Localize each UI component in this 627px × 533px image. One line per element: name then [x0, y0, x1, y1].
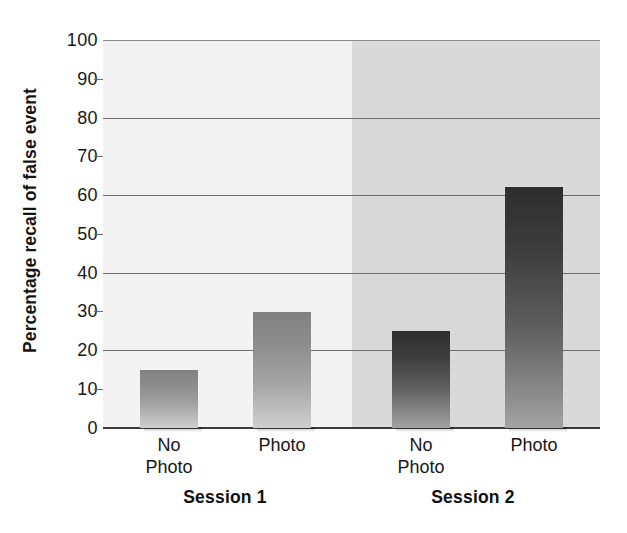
y-tick-label-30: 30	[48, 302, 98, 320]
gridline-80	[103, 118, 600, 119]
x-tick-label-line1: No	[157, 435, 180, 455]
minor-tick-30	[94, 311, 103, 312]
y-axis-title: Percentage recall of false event	[13, 0, 47, 440]
group-labels: Session 1 Session 2	[103, 487, 600, 517]
y-axis-title-text: Percentage recall of false event	[20, 88, 41, 353]
x-tick-label-line1: Photo	[258, 435, 305, 455]
minor-tick-10	[94, 389, 103, 390]
x-tick-label-session2-no-photo: No Photo	[371, 434, 471, 478]
bar-session1-no-photo	[140, 370, 198, 428]
group-label-session2: Session 2	[403, 487, 543, 508]
bar-session2-photo	[505, 187, 563, 428]
gridline-100	[103, 40, 600, 41]
x-axis-tick-labels: No Photo Photo No Photo Photo	[103, 434, 600, 482]
bar-session2-no-photo	[392, 331, 450, 428]
x-tick-label-session1-no-photo: No Photo	[119, 434, 219, 478]
y-tick-label-0: 0	[48, 419, 98, 437]
y-axis-tick-labels: 100 90 80 70 60 50 40 30 20 10 0	[48, 0, 98, 533]
y-tick-label-60: 60	[48, 186, 98, 204]
x-tick-label-line2: Photo	[371, 456, 471, 478]
minor-tick-70	[94, 156, 103, 157]
minor-tick-90	[94, 79, 103, 80]
x-tick-label-line1: Photo	[510, 435, 557, 455]
plot-area	[103, 40, 600, 428]
y-tick-label-70: 70	[48, 147, 98, 165]
x-tick-label-session2-photo: Photo	[484, 434, 584, 456]
y-tick-label-10: 10	[48, 380, 98, 398]
y-tick-label-20: 20	[48, 341, 98, 359]
bar-session1-photo	[253, 312, 311, 428]
x-tick-label-line2: Photo	[119, 456, 219, 478]
y-tick-label-40: 40	[48, 264, 98, 282]
y-tick-label-80: 80	[48, 109, 98, 127]
bar-chart: Percentage recall of false event 100 90 …	[0, 0, 627, 533]
y-tick-label-90: 90	[48, 70, 98, 88]
y-tick-label-50: 50	[48, 225, 98, 243]
y-tick-label-100: 100	[48, 31, 98, 49]
x-tick-label-line1: No	[409, 435, 432, 455]
minor-tick-50	[94, 234, 103, 235]
group-label-session1: Session 1	[155, 487, 295, 508]
x-tick-label-session1-photo: Photo	[232, 434, 332, 456]
